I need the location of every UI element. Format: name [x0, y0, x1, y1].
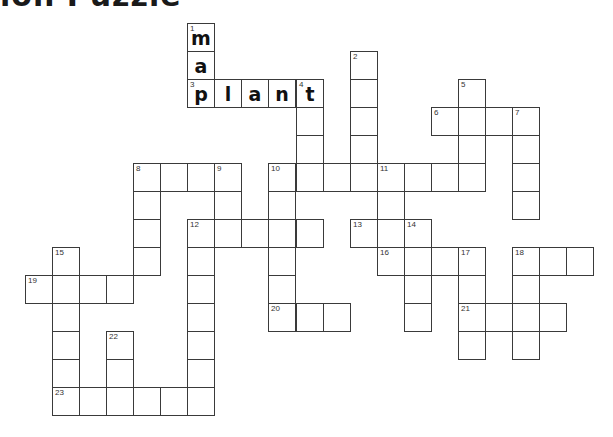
- crossword-cell-1[interactable]: 1m: [187, 23, 215, 52]
- clue-number: 6: [434, 108, 438, 118]
- crossword-cell[interactable]: [187, 331, 215, 360]
- crossword-cell[interactable]: [323, 303, 351, 332]
- crossword-cell[interactable]: [431, 247, 459, 276]
- crossword-grid: 1ma23plan4t56789101112131415161718192021…: [0, 0, 613, 437]
- crossword-cell[interactable]: [241, 219, 269, 248]
- crossword-cell-13[interactable]: 13: [350, 219, 378, 248]
- crossword-cell[interactable]: [512, 331, 540, 360]
- crossword-cell[interactable]: [296, 163, 324, 192]
- crossword-cell[interactable]: [52, 275, 80, 304]
- crossword-cell[interactable]: a: [187, 51, 215, 80]
- crossword-cell[interactable]: [512, 191, 540, 220]
- crossword-cell[interactable]: [512, 303, 540, 332]
- crossword-cell-19[interactable]: 19: [25, 275, 53, 304]
- crossword-cell-16[interactable]: 16: [377, 247, 405, 276]
- crossword-cell[interactable]: [214, 191, 242, 220]
- crossword-cell-15[interactable]: 15: [52, 247, 80, 276]
- crossword-cell[interactable]: [404, 247, 432, 276]
- crossword-cell[interactable]: [133, 191, 161, 220]
- crossword-cell[interactable]: [268, 247, 296, 276]
- cell-letter: a: [242, 83, 268, 105]
- cell-letter: a: [188, 55, 214, 77]
- crossword-cell[interactable]: [431, 163, 459, 192]
- crossword-cell[interactable]: [187, 359, 215, 388]
- crossword-cell-7[interactable]: 7: [512, 107, 540, 136]
- crossword-cell[interactable]: [296, 303, 324, 332]
- clue-number: 13: [353, 220, 362, 230]
- crossword-cell[interactable]: [512, 135, 540, 164]
- crossword-cell[interactable]: [296, 135, 324, 164]
- crossword-cell[interactable]: [458, 135, 486, 164]
- crossword-cell[interactable]: [404, 303, 432, 332]
- crossword-cell[interactable]: [106, 275, 134, 304]
- crossword-cell-22[interactable]: 22: [106, 331, 134, 360]
- crossword-cell-3[interactable]: 3p: [187, 79, 215, 108]
- crossword-cell[interactable]: [458, 107, 486, 136]
- crossword-cell-8[interactable]: 8: [133, 163, 161, 192]
- clue-number: 20: [271, 304, 280, 314]
- crossword-cell[interactable]: [323, 163, 351, 192]
- crossword-cell[interactable]: [133, 219, 161, 248]
- crossword-cell-6[interactable]: 6: [431, 107, 459, 136]
- clue-number: 5: [461, 80, 465, 90]
- crossword-cell[interactable]: [133, 247, 161, 276]
- crossword-cell[interactable]: [268, 191, 296, 220]
- crossword-cell[interactable]: [512, 163, 540, 192]
- crossword-cell-14[interactable]: 14: [404, 219, 432, 248]
- crossword-cell[interactable]: [350, 135, 378, 164]
- crossword-cell-10[interactable]: 10: [268, 163, 296, 192]
- crossword-cell[interactable]: [79, 275, 107, 304]
- crossword-cell[interactable]: [52, 331, 80, 360]
- crossword-cell[interactable]: [187, 275, 215, 304]
- crossword-cell[interactable]: [52, 359, 80, 388]
- crossword-cell[interactable]: [404, 275, 432, 304]
- crossword-cell-20[interactable]: 20: [268, 303, 296, 332]
- crossword-cell-23[interactable]: 23: [52, 387, 80, 416]
- crossword-cell[interactable]: [539, 247, 567, 276]
- crossword-cell[interactable]: [539, 303, 567, 332]
- crossword-cell[interactable]: [79, 387, 107, 416]
- crossword-cell[interactable]: a: [241, 79, 269, 108]
- crossword-cell[interactable]: n: [268, 79, 296, 108]
- crossword-cell-4[interactable]: 4t: [296, 79, 324, 108]
- crossword-cell[interactable]: [106, 387, 134, 416]
- crossword-cell[interactable]: [187, 387, 215, 416]
- crossword-cell[interactable]: [160, 387, 188, 416]
- crossword-cell[interactable]: [160, 163, 188, 192]
- crossword-cell-12[interactable]: 12: [187, 219, 215, 248]
- crossword-cell[interactable]: [52, 303, 80, 332]
- clue-number: 9: [217, 164, 221, 174]
- crossword-cell[interactable]: [296, 219, 324, 248]
- crossword-cell[interactable]: l: [214, 79, 242, 108]
- crossword-cell[interactable]: [187, 163, 215, 192]
- crossword-cell[interactable]: [458, 331, 486, 360]
- crossword-cell[interactable]: [214, 219, 242, 248]
- crossword-cell[interactable]: [106, 359, 134, 388]
- clue-number: 21: [461, 304, 470, 314]
- crossword-cell[interactable]: [187, 247, 215, 276]
- crossword-cell-2[interactable]: 2: [350, 51, 378, 80]
- crossword-cell-9[interactable]: 9: [214, 163, 242, 192]
- crossword-cell[interactable]: [350, 79, 378, 108]
- crossword-cell[interactable]: [458, 163, 486, 192]
- crossword-cell[interactable]: [458, 275, 486, 304]
- crossword-cell[interactable]: [268, 275, 296, 304]
- crossword-cell[interactable]: [485, 107, 513, 136]
- crossword-cell[interactable]: [350, 107, 378, 136]
- crossword-cell[interactable]: [566, 247, 594, 276]
- crossword-cell[interactable]: [404, 163, 432, 192]
- crossword-cell-21[interactable]: 21: [458, 303, 486, 332]
- crossword-cell[interactable]: [350, 163, 378, 192]
- crossword-cell-5[interactable]: 5: [458, 79, 486, 108]
- crossword-cell[interactable]: [485, 303, 513, 332]
- crossword-cell[interactable]: [377, 219, 405, 248]
- crossword-cell-17[interactable]: 17: [458, 247, 486, 276]
- crossword-cell[interactable]: [187, 303, 215, 332]
- crossword-cell[interactable]: [296, 107, 324, 136]
- crossword-cell-18[interactable]: 18: [512, 247, 540, 276]
- crossword-cell-11[interactable]: 11: [377, 163, 405, 192]
- crossword-cell[interactable]: [133, 387, 161, 416]
- crossword-cell[interactable]: [512, 275, 540, 304]
- crossword-cell[interactable]: [377, 191, 405, 220]
- crossword-cell[interactable]: [268, 219, 296, 248]
